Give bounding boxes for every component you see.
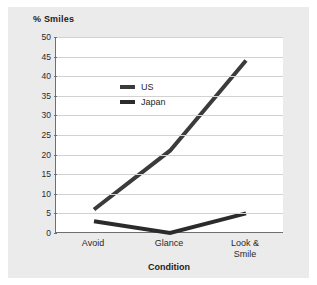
legend-label-us: US [141,81,154,93]
y-tick-label: 5 [46,208,51,218]
x-tick-label: Look & Smile [231,238,259,260]
y-tick-label: 15 [42,169,51,179]
y-tick-mark [54,135,57,136]
y-tick-mark [54,115,57,116]
x-axis-title: Condition [55,262,283,272]
y-tick-mark [54,37,57,38]
x-tick-label: Avoid [82,238,104,249]
y-tick-label: 20 [42,150,51,160]
legend-item-japan: Japan [120,96,200,108]
y-tick-mark [54,96,57,97]
x-tick-label: Glance [155,238,184,249]
y-tick-mark [54,213,57,214]
y-axis-tick-labels: 50454035302520151050 [26,37,51,233]
gridline [56,37,283,38]
y-tick-label: 45 [42,52,51,62]
y-tick-label: 30 [42,110,51,120]
gridline [56,213,283,214]
y-tick-mark [54,76,57,77]
y-tick-label: 40 [42,71,51,81]
gridline [56,76,283,77]
y-tick-label: 0 [46,228,51,238]
plot-area: US Japan [55,37,283,233]
series-line-japan [94,213,246,233]
gridline [56,96,283,97]
y-tick-mark [54,155,57,156]
y-tick-mark [54,233,57,234]
y-tick-mark [54,194,57,195]
y-tick-label: 25 [42,130,51,140]
gridline [56,57,283,58]
legend-swatch-us [120,85,135,89]
gridline [56,155,283,156]
chart-figure: % Smiles 50454035302520151050 US Japan A… [0,0,317,285]
y-axis-title: % Smiles [33,14,74,24]
y-tick-label: 35 [42,91,51,101]
legend-item-us: US [120,81,200,93]
gridline [56,194,283,195]
gridline [56,115,283,116]
y-tick-mark [54,174,57,175]
gridline [56,174,283,175]
legend-swatch-japan [120,100,135,104]
y-tick-mark [54,57,57,58]
legend-label-japan: Japan [141,96,166,108]
y-tick-label: 50 [42,32,51,42]
y-tick-label: 10 [42,189,51,199]
gridline [56,135,283,136]
